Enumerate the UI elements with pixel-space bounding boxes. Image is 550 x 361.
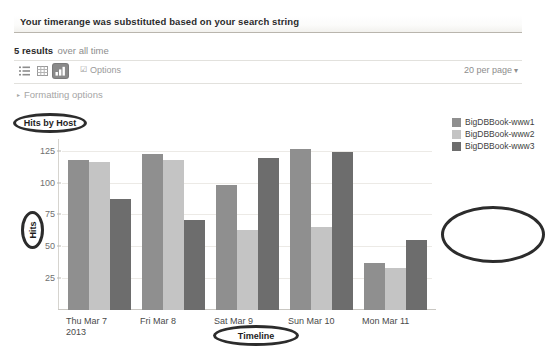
y-axis-tick-mark (57, 182, 61, 183)
bar-group: Fri Mar 8 (136, 143, 210, 310)
legend-swatch (452, 118, 461, 127)
y-axis-tick-mark (57, 150, 61, 151)
legend-label: BigDBBook-www1 (465, 117, 534, 127)
bar[interactable] (89, 162, 110, 310)
legend-item[interactable]: BigDBBook-www3 (452, 140, 534, 152)
annotation-hits: Hits (21, 211, 44, 249)
bar[interactable] (216, 185, 237, 310)
y-axis-tick-label: 50 (45, 241, 55, 251)
y-axis-tick-label: 100 (40, 178, 55, 188)
chart-view-icon[interactable] (53, 64, 68, 78)
bar-group: Sun Mar 10 (284, 143, 358, 310)
per-page-label: 20 per page (464, 65, 512, 75)
bar[interactable] (364, 263, 385, 310)
bar-groups: Thu Mar 72013Fri Mar 8Sat Mar 9Sun Mar 1… (62, 143, 432, 310)
x-axis-tick-label: Fri Mar 8 (140, 316, 176, 327)
annotation-hits-label: Hits (28, 221, 38, 238)
legend-item[interactable]: BigDBBook-www1 (452, 116, 534, 128)
bar[interactable] (311, 227, 332, 310)
per-page-dropdown[interactable]: 20 per page▾ (464, 65, 518, 75)
y-axis-tick-mark (57, 278, 61, 279)
results-scope: over all time (58, 45, 109, 56)
annotation-timeline-label: Timeline (238, 331, 274, 341)
annotation-timeline: Timeline (213, 325, 299, 346)
list-view-icon[interactable] (17, 64, 32, 78)
annotation-hits-by-host-label: Hits by Host (24, 118, 77, 128)
legend-item[interactable]: BigDBBook-www2 (452, 128, 534, 140)
bar[interactable] (406, 240, 427, 310)
results-summary-row: 5 results over all time (14, 40, 522, 61)
annotation-legend-circle (441, 206, 545, 263)
timerange-banner: Your timerange was substituted based on … (14, 15, 522, 33)
x-axis-tick-label-line: Thu Mar 7 (66, 316, 107, 327)
chevron-down-icon: ▾ (514, 66, 518, 75)
bar[interactable] (385, 268, 406, 310)
options-toggle[interactable]: ☑ Options (80, 65, 121, 75)
results-count: 5 results (14, 45, 53, 56)
legend-swatch (452, 130, 461, 139)
bar[interactable] (332, 152, 353, 310)
view-toolbar: ☑ Options 20 per page▾ (14, 62, 522, 84)
y-axis-tick-mark (57, 214, 61, 215)
bar[interactable] (237, 230, 258, 310)
legend-swatch (452, 142, 461, 151)
bar-group: Sat Mar 9 (210, 143, 284, 310)
options-checkbox-icon: ☑ (80, 66, 87, 74)
y-axis-tick-label: 125 (40, 146, 55, 156)
x-axis-tick-label-line: Sun Mar 10 (288, 316, 335, 327)
bar[interactable] (68, 160, 89, 310)
bar[interactable] (142, 154, 163, 310)
chart-legend: BigDBBook-www1BigDBBook-www2BigDBBook-ww… (452, 116, 534, 152)
annotation-hits-by-host: Hits by Host (13, 113, 87, 133)
y-axis-tick-mark (57, 246, 61, 247)
bar[interactable] (163, 160, 184, 310)
triangle-right-icon: ▸ (17, 91, 20, 98)
x-axis-tick-label: Mon Mar 11 (362, 316, 409, 327)
y-axis-tick-label: 25 (45, 273, 55, 283)
bar[interactable] (110, 199, 131, 310)
legend-label: BigDBBook-www2 (465, 129, 534, 139)
legend-label: BigDBBook-www3 (465, 141, 534, 151)
y-axis-tick-label: 75 (45, 209, 55, 219)
view-mode-switcher (17, 64, 68, 78)
bar[interactable] (184, 220, 205, 311)
plot-area: 255075100125 Thu Mar 72013Fri Mar 8Sat M… (62, 143, 432, 310)
options-label: Options (90, 65, 121, 75)
bar[interactable] (258, 158, 279, 310)
x-axis-tick-label-line: Fri Mar 8 (140, 316, 176, 327)
bar-group: Mon Mar 11 (358, 143, 432, 310)
x-axis-tick-label-line: 2013 (66, 327, 107, 338)
table-view-icon[interactable] (35, 64, 50, 78)
x-axis-tick-label: Sun Mar 10 (288, 316, 335, 327)
y-axis-line (58, 139, 59, 310)
formatting-options-disclosure[interactable]: ▸ Formatting options (17, 89, 103, 100)
bar[interactable] (290, 149, 311, 310)
formatting-options-label: Formatting options (24, 89, 103, 100)
x-axis-tick-label: Thu Mar 72013 (66, 316, 107, 338)
timerange-banner-text: Your timerange was substituted based on … (20, 16, 299, 27)
x-axis-tick-label-line: Mon Mar 11 (362, 316, 409, 327)
bar-group: Thu Mar 72013 (62, 143, 136, 310)
